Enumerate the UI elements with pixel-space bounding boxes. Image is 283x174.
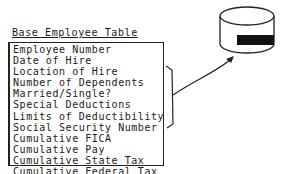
connector-diagram — [0, 0, 283, 174]
bracket-icon — [166, 66, 173, 128]
connector-arrow — [173, 58, 232, 95]
database-cylinder-icon — [220, 7, 274, 53]
